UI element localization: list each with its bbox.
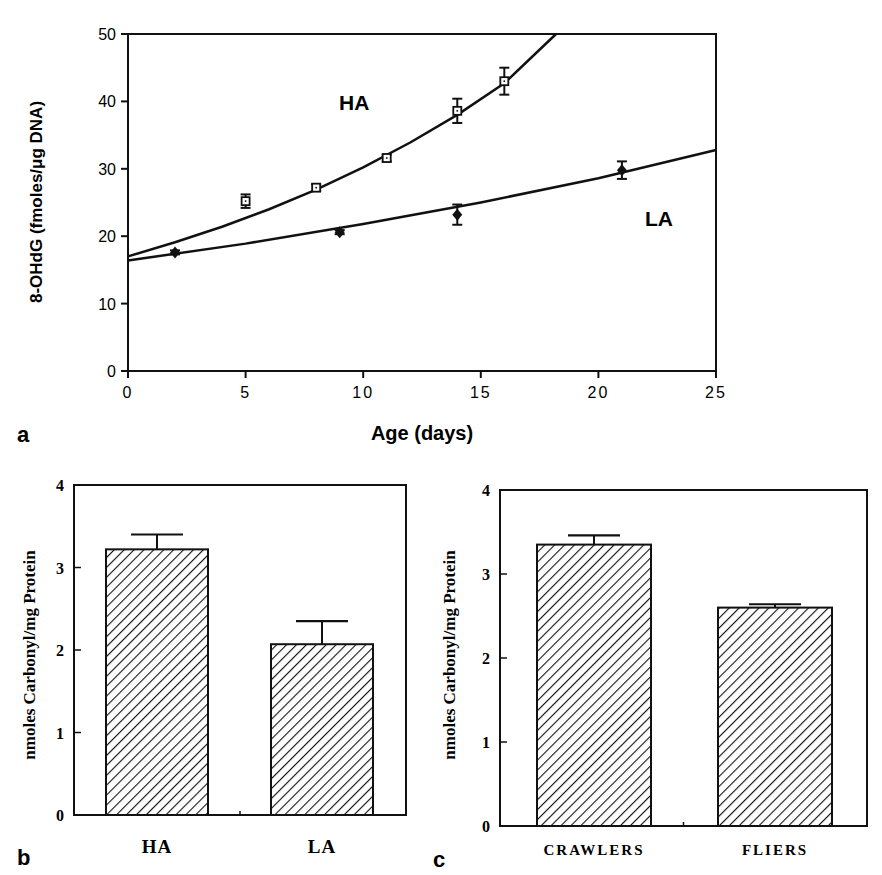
x-tick-label: 5 — [240, 384, 251, 401]
data-point-ha — [499, 68, 509, 95]
panel-letter-c: c — [433, 847, 445, 872]
y-tick-label: 20 — [98, 228, 116, 245]
y-axis-label-b: nmoles Carbonyl/mg Protein — [20, 550, 39, 760]
y-tick-label: 0 — [56, 807, 64, 824]
panel-letter-a: a — [17, 422, 30, 447]
fit-curve-ha — [128, 34, 556, 256]
x-axis-a: 0510152025 — [123, 371, 727, 401]
data-point-la — [617, 161, 627, 179]
category-label: FLIERS — [742, 842, 808, 858]
bar-ha — [106, 535, 208, 816]
y-tick-label: 2 — [56, 642, 64, 659]
plot-area-a — [128, 34, 716, 371]
y-tick-label: 4 — [56, 477, 64, 494]
data-point-ha — [382, 154, 392, 162]
data-points-a — [170, 68, 627, 259]
y-axis-label-a: 8-OHdG (fmoles/μg DNA) — [27, 101, 46, 303]
category-label: CRAWLERS — [543, 842, 644, 858]
bar-chart-c: 01234CRAWLERSFLIERS nmoles Carbonyl/mg P… — [433, 482, 867, 872]
x-tick-label: 25 — [705, 384, 727, 401]
x-tick-label: 20 — [588, 384, 610, 401]
panel-letter-b: b — [17, 845, 30, 870]
data-point-ha — [311, 184, 321, 192]
data-point-ha — [452, 99, 462, 123]
y-tick-label: 10 — [98, 296, 116, 313]
x-tick-label: 10 — [352, 384, 374, 401]
bar-chart-b: 01234HALA nmoles Carbonyl/mg Protein b — [17, 477, 406, 870]
series-label-la: LA — [645, 207, 673, 230]
y-tick-label: 30 — [98, 161, 116, 178]
y-tick-label: 0 — [107, 363, 116, 380]
x-axis-label-a: Age (days) — [371, 422, 473, 444]
y-tick-label: 1 — [56, 725, 64, 742]
y-tick-label: 4 — [482, 482, 490, 499]
y-tick-label: 3 — [56, 560, 64, 577]
fit-curves-a — [128, 34, 716, 260]
y-tick-label: 0 — [482, 818, 490, 835]
bars-c: 01234CRAWLERSFLIERS — [482, 482, 867, 858]
bar-la — [271, 621, 373, 815]
category-label: HA — [142, 836, 173, 857]
y-tick-label: 2 — [482, 650, 490, 667]
data-point-ha — [241, 194, 251, 207]
y-axis-a: 01020304050 — [98, 26, 128, 380]
y-tick-label: 3 — [482, 566, 490, 583]
fit-curve-la — [128, 150, 716, 261]
plot-frame-a — [128, 34, 716, 371]
category-label: LA — [308, 836, 336, 857]
series-label-ha: HA — [339, 91, 369, 114]
y-tick-label: 40 — [98, 93, 116, 110]
bar-crawlers — [537, 535, 651, 826]
x-tick-label: 0 — [123, 384, 134, 401]
x-tick-label: 15 — [470, 384, 492, 401]
line-chart-a: 01020304050 0510152025 8-OHdG (fmoles/μg… — [17, 26, 727, 447]
bar-fliers — [718, 604, 832, 826]
figure: 01020304050 0510152025 8-OHdG (fmoles/μg… — [0, 0, 882, 875]
data-point-la — [170, 246, 180, 258]
y-tick-label: 50 — [98, 26, 116, 43]
y-axis-label-c: nmoles Carbonyl/mg Protein — [440, 550, 459, 760]
bars-b: 01234HALA — [56, 477, 406, 857]
y-tick-label: 1 — [482, 734, 490, 751]
